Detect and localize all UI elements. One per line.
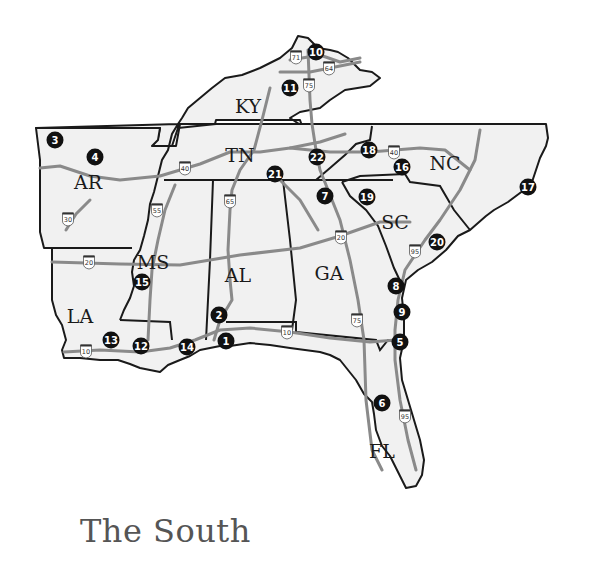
marker-number: 1: [223, 336, 230, 347]
interstate-number: 10: [283, 329, 291, 337]
marker-number: 5: [397, 337, 404, 348]
interstate-number: 40: [181, 165, 189, 173]
marker-number: 17: [521, 182, 535, 193]
location-marker-21[interactable]: 21: [267, 166, 284, 183]
state-label-ky: KY: [235, 95, 262, 117]
location-marker-2[interactable]: 2: [211, 307, 228, 324]
interstate-number: 75: [353, 317, 361, 325]
interstate-shield-icon: 10: [282, 326, 293, 340]
marker-number: 22: [310, 152, 324, 163]
marker-number: 21: [268, 169, 282, 180]
state-label-sc: SC: [381, 211, 409, 233]
interstate-number: 64: [325, 65, 333, 73]
interstate-shield-icon: 75: [304, 79, 315, 93]
marker-number: 2: [216, 310, 223, 321]
interstate-shield-icon: 64: [324, 62, 335, 76]
state-label-fl: FL: [369, 440, 395, 462]
location-marker-16[interactable]: 16: [394, 159, 411, 176]
marker-number: 20: [430, 237, 444, 248]
location-marker-8[interactable]: 8: [388, 278, 405, 295]
location-marker-17[interactable]: 17: [520, 179, 537, 196]
location-marker-14[interactable]: 14: [179, 339, 196, 356]
marker-number: 9: [399, 307, 406, 318]
marker-number: 15: [135, 277, 149, 288]
marker-number: 18: [362, 145, 376, 156]
interstate-number: 55: [153, 207, 161, 215]
marker-number: 19: [360, 192, 374, 203]
map-title: The South: [80, 512, 251, 550]
state-label-ga: GA: [315, 262, 344, 284]
state-label-al: AL: [224, 264, 252, 286]
marker-number: 14: [180, 342, 194, 353]
interstate-shield-icon: 95: [410, 245, 421, 259]
interstate-number: 30: [64, 216, 72, 224]
interstate-number: 65: [226, 198, 234, 206]
location-marker-10[interactable]: 10: [308, 44, 325, 61]
location-marker-12[interactable]: 12: [133, 338, 150, 355]
location-marker-13[interactable]: 13: [103, 332, 120, 349]
interstate-shield-icon: 71: [291, 51, 302, 65]
interstate-number: 20: [85, 259, 93, 267]
state-label-nc: NC: [429, 152, 460, 174]
location-marker-9[interactable]: 9: [394, 304, 411, 321]
marker-number: 13: [104, 335, 118, 346]
state-label-ar: AR: [73, 171, 103, 193]
interstate-shield-icon: 55: [152, 204, 163, 218]
location-marker-1[interactable]: 1: [218, 333, 235, 350]
interstate-number: 75: [305, 82, 313, 90]
location-marker-11[interactable]: 11: [282, 80, 299, 97]
marker-number: 6: [379, 398, 386, 409]
marker-number: 7: [322, 191, 329, 202]
interstate-shield-icon: 95: [400, 410, 411, 424]
marker-number: 12: [134, 341, 148, 352]
state-label-tn: TN: [225, 144, 254, 166]
interstate-shield-icon: 20: [336, 231, 347, 245]
interstate-shield-icon: 20: [84, 256, 95, 270]
interstate-number: 10: [82, 348, 90, 356]
marker-number: 8: [393, 281, 400, 292]
location-marker-6[interactable]: 6: [374, 395, 391, 412]
interstate-number: 71: [292, 54, 300, 62]
interstate-number: 95: [411, 248, 419, 256]
location-marker-3[interactable]: 3: [47, 132, 64, 149]
location-marker-19[interactable]: 19: [359, 189, 376, 206]
interstate-number: 40: [390, 149, 398, 157]
interstate-shield-icon: 40: [389, 146, 400, 160]
location-marker-5[interactable]: 5: [392, 334, 409, 351]
interstate-number: 95: [401, 413, 409, 421]
marker-number: 3: [52, 135, 59, 146]
location-marker-7[interactable]: 7: [317, 188, 334, 205]
marker-number: 10: [309, 47, 323, 58]
location-marker-22[interactable]: 22: [309, 149, 326, 166]
location-marker-20[interactable]: 20: [429, 234, 446, 251]
south-region-map: 716475404030556520209510107595 123456789…: [0, 0, 589, 575]
interstate-shield-icon: 75: [352, 314, 363, 328]
location-marker-15[interactable]: 15: [134, 274, 151, 291]
location-marker-18[interactable]: 18: [361, 142, 378, 159]
interstate-shield-icon: 65: [225, 195, 236, 209]
marker-number: 16: [395, 162, 409, 173]
location-marker-4[interactable]: 4: [87, 149, 104, 166]
interstate-shield-icon: 10: [81, 345, 92, 359]
marker-number: 4: [92, 152, 99, 163]
interstate-number: 20: [337, 234, 345, 242]
marker-number: 11: [283, 83, 297, 94]
state-label-la: LA: [67, 305, 94, 327]
state-label-ms: MS: [137, 251, 169, 273]
interstate-shield-icon: 40: [180, 162, 191, 176]
interstate-shield-icon: 30: [63, 213, 74, 227]
